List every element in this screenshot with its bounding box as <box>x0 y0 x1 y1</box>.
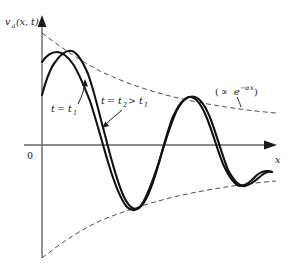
x-axis-label: x <box>275 154 281 165</box>
y-axis-label: v a (x, t) <box>5 16 39 30</box>
wave-curve-t1 <box>42 51 272 209</box>
curve-label-t2-comparator: > <box>128 95 136 106</box>
leader-line-t2 <box>105 110 122 125</box>
figure-container: v a (x, t) x 0 t = t 1 t = t 2 > t 1 ( ∝ <box>0 0 299 265</box>
origin-label: 0 <box>27 150 33 161</box>
curve-label-t2-rhs-sub: 2 <box>122 101 127 109</box>
curve-label-t2-rhs: t <box>118 95 122 106</box>
y-axis <box>38 15 47 258</box>
damped-wave-plot: v a (x, t) x 0 t = t 1 t = t 2 > t 1 ( ∝ <box>0 0 299 265</box>
curve-label-t2-equals: = <box>107 95 115 106</box>
curve-label-t1-rhs: t <box>68 103 72 114</box>
wave-curve-t2 <box>42 52 272 210</box>
curve-label-t2-lhs: t <box>101 95 105 106</box>
curve-label-t2: t = t 2 > t 1 <box>101 95 148 109</box>
curve-label-t1-equals: = <box>57 103 65 114</box>
curve-label-t1-rhs-sub: 1 <box>73 109 77 117</box>
envelope-annotation-close-paren: ) <box>254 86 258 97</box>
curve-label-t2-compare-sub: 1 <box>144 101 148 109</box>
lower-envelope-curve <box>42 181 276 258</box>
proportional-to-icon: ∝ <box>221 86 227 97</box>
x-axis <box>24 140 277 149</box>
y-axis-label-base: v <box>5 16 11 27</box>
y-axis-arrowhead-icon <box>38 15 47 27</box>
y-axis-label-subscript: a <box>12 22 16 30</box>
leader-line-envelope <box>237 97 241 107</box>
y-axis-label-args: (x, t) <box>16 16 39 27</box>
curve-label-t1-lhs: t <box>51 103 55 114</box>
curve-label-t2-compare-base: t <box>139 95 143 106</box>
x-axis-arrowhead-icon <box>264 140 277 149</box>
curve-label-t1: t = t 1 <box>51 103 77 117</box>
leader-line-t1 <box>78 83 85 104</box>
envelope-annotation-open-paren: ( <box>215 86 219 97</box>
envelope-annotation: ( ∝ e − α x ) <box>215 84 258 97</box>
